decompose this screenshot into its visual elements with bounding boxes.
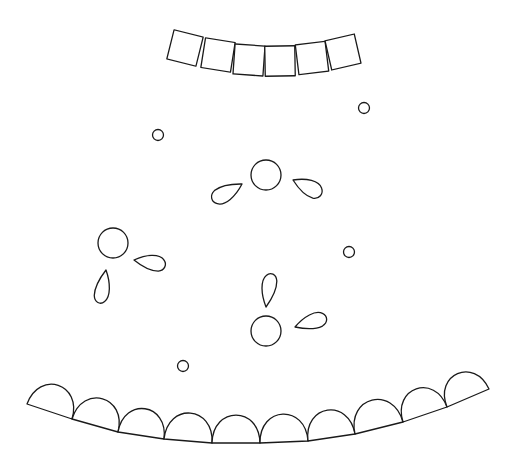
small-circle [344, 247, 355, 258]
dome-shape [212, 415, 260, 443]
dome-shape [27, 384, 74, 419]
dome-shape [444, 372, 489, 407]
diagram-canvas [0, 0, 512, 469]
square-shape [295, 41, 328, 74]
teardrop-shape [133, 253, 167, 272]
large-circle [251, 316, 281, 346]
teardrop-shape [289, 173, 325, 201]
square-shape [201, 38, 235, 72]
teardrop-shape [293, 310, 329, 335]
large-circle [251, 160, 281, 190]
dome-shape [260, 414, 308, 443]
teardrop-shape [93, 269, 113, 305]
teardrop-group [93, 173, 329, 335]
small-circle [359, 103, 370, 114]
shapes-diagram [0, 0, 512, 469]
dome-shape [118, 409, 164, 439]
large-circle [98, 228, 128, 258]
teardrop-shape [259, 273, 278, 308]
small-circle [153, 130, 164, 141]
square-shape [233, 44, 265, 76]
bottom-dome-row [27, 372, 489, 443]
large-circle-group [98, 160, 281, 346]
dome-shape [72, 398, 119, 432]
top-square-row [167, 30, 361, 76]
dome-shape [401, 388, 447, 422]
square-shape [167, 30, 203, 66]
dome-shape [308, 410, 355, 441]
dome-shape [354, 399, 403, 434]
small-circle [178, 361, 189, 372]
teardrop-shape [209, 177, 246, 208]
dome-shape [164, 413, 212, 443]
square-shape [325, 34, 361, 70]
square-shape [265, 46, 296, 77]
